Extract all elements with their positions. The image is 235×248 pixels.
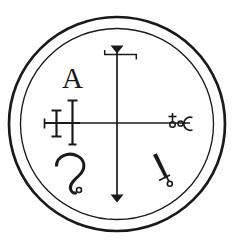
top-arrowhead-crossbar-glyph <box>104 46 137 60</box>
top-arrowhead-icon <box>111 46 124 54</box>
double-barred-left-glyph <box>45 100 81 145</box>
dagger-terminal-ring-icon <box>167 181 172 186</box>
letter-a-glyph: A <box>62 62 83 94</box>
dagger-blade <box>153 153 168 178</box>
dagger-stroke-glyph <box>153 153 172 186</box>
s-curve-terminal-ring-icon <box>77 188 82 193</box>
bottom-arrowhead-icon <box>111 195 124 203</box>
s-curve-hook-glyph <box>56 154 83 193</box>
sigil-canvas: A <box>0 0 235 248</box>
sigil-drawing: A <box>0 0 235 248</box>
right-terminal-cluster-glyph <box>169 113 193 130</box>
